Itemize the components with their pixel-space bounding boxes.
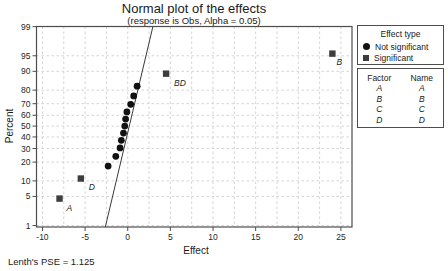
factor-cell: C — [358, 104, 401, 114]
y-tick-label: 20 — [21, 157, 31, 167]
data-point-D — [78, 175, 84, 181]
point-label-D: D — [89, 182, 95, 192]
x-tick-label: 15 — [251, 232, 261, 242]
y-tick-label: 50 — [21, 121, 31, 131]
name-cell: A — [401, 83, 444, 93]
y-tick-label: 90 — [21, 66, 31, 76]
data-point — [121, 123, 128, 130]
square-marker-icon — [363, 55, 369, 61]
legend-effect-type: Effect type Not significant Significant — [357, 25, 444, 65]
data-point — [118, 137, 125, 144]
x-tick-label: 5 — [168, 232, 173, 242]
factor-cell: D — [358, 115, 401, 125]
legend-item-label: Significant — [374, 53, 413, 63]
x-tick-label: 10 — [208, 232, 218, 242]
data-point — [123, 109, 130, 116]
legend-factor-table: Factor Name A A B B C C D D — [357, 68, 444, 128]
data-point-B — [329, 50, 335, 56]
x-tick-label: -5 — [81, 232, 89, 242]
data-point — [122, 116, 129, 123]
x-tick-label: 0 — [125, 232, 130, 242]
data-point — [130, 93, 137, 100]
legend-item-significant: Significant — [358, 52, 443, 63]
legend-item-label: Not significant — [375, 42, 428, 52]
data-point — [120, 130, 127, 137]
normal-plot-figure: Normal plot of the effects (response is … — [0, 0, 448, 271]
y-tick-label: 60 — [21, 110, 31, 120]
y-tick-label: 95 — [21, 51, 31, 61]
factor-cell: B — [358, 94, 401, 104]
data-point — [112, 153, 119, 160]
point-label-A: A — [66, 203, 73, 213]
lenths-pse-note: Lenth's PSE = 1.125 — [8, 256, 95, 267]
data-point-A — [56, 195, 62, 201]
y-tick-label: 30 — [21, 144, 31, 154]
name-cell: C — [401, 104, 444, 114]
data-point — [105, 163, 112, 170]
factor-cell: A — [358, 83, 401, 93]
x-tick-label: 20 — [294, 232, 304, 242]
point-label-BD: BD — [174, 78, 186, 88]
fit-line — [105, 27, 153, 228]
name-cell: B — [401, 94, 444, 104]
y-tick-label: 5 — [26, 191, 31, 201]
y-tick-label: 1 — [26, 221, 31, 231]
name-column-header: Name — [401, 73, 444, 83]
y-tick-label: 70 — [21, 99, 31, 109]
data-point — [127, 101, 134, 108]
y-tick-label: 80 — [21, 85, 31, 95]
x-tick-label: -10 — [36, 232, 49, 242]
circle-marker-icon — [363, 43, 370, 50]
y-tick-label: 99 — [21, 22, 31, 32]
y-tick-label: 10 — [21, 176, 31, 186]
legend-title: Effect type — [358, 29, 443, 39]
x-tick-label: 25 — [336, 232, 346, 242]
legend-item-not-significant: Not significant — [358, 41, 443, 52]
data-point — [134, 83, 141, 90]
factor-column-header: Factor — [358, 73, 401, 83]
data-point-BD — [163, 70, 169, 76]
name-cell: D — [401, 115, 444, 125]
point-label-B: B — [336, 57, 342, 67]
data-point — [117, 145, 124, 152]
y-tick-label: 40 — [21, 132, 31, 142]
factor-name-table: Factor Name A A B B C C D D — [358, 73, 443, 125]
